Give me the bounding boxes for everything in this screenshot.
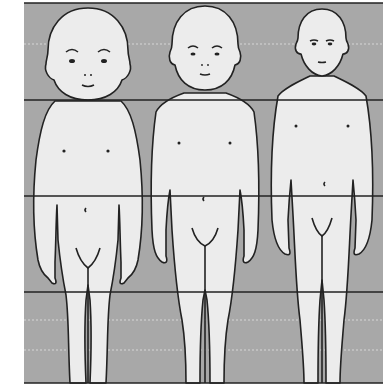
- proportion-illustration: Proportion comparison of three child fig…: [0, 0, 389, 392]
